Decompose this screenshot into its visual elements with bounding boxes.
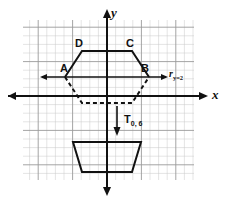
figure-canvas — [0, 0, 229, 201]
y-axis-label: y — [111, 6, 117, 19]
translation-notation-label: T0, 6 — [124, 114, 142, 127]
translation-arrow — [114, 106, 121, 136]
vertex-label-c: C — [126, 38, 134, 49]
grid-minor-lines — [23, 20, 194, 180]
translation-notation-prefix: T — [124, 113, 131, 125]
translation-notation-subscript: 0, 6 — [131, 120, 143, 127]
x-axis-label: x — [212, 88, 219, 101]
vertex-label-d: D — [75, 38, 83, 49]
geometry-figure: A B C D y x ry=2 T0, 6 — [0, 0, 229, 201]
reflection-notation-subscript: y=2 — [173, 74, 183, 81]
vertex-label-a: A — [60, 63, 68, 74]
reflection-notation-label: ry=2 — [169, 69, 183, 82]
vertex-label-b: B — [141, 63, 149, 74]
